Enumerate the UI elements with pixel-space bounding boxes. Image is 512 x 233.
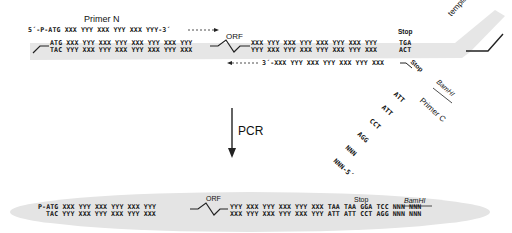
- product-bamhi-label: BamHI: [404, 197, 425, 204]
- template-bottom-strand-right: YYY XXX YYY XXX YYY XXX YYY XXX: [251, 47, 377, 54]
- primer-c-tail-codon: ATT: [380, 104, 394, 118]
- primer-c-tail-codon: CCT: [368, 117, 382, 131]
- primer-c-tail-codon: NNN: [344, 144, 358, 158]
- primer-c-tail-codon: ATT: [392, 90, 406, 104]
- product-bottom-left: TAC YYY XXX YYY XXX YYY XXX: [46, 211, 156, 218]
- stop-codon-bottom: ACT: [399, 47, 411, 54]
- stop-label: Stop: [398, 28, 412, 35]
- primer-n-label: Primer N: [84, 14, 120, 24]
- orf-label: ORF: [226, 32, 243, 41]
- product-stop-label: Stop: [354, 196, 368, 203]
- template-bottom-strand-left: TAC YYY XXX YYY XXX YYY XXX YYY XXX: [50, 47, 192, 54]
- product-orf-label: ORF: [206, 195, 221, 202]
- primer-c-sequence: 3´-XXX YYY XXX YYY XXX YYY XXX: [262, 60, 384, 67]
- pcr-label: PCR: [238, 124, 263, 138]
- primer-c-tail-codon: AGG: [356, 130, 370, 144]
- primer-n-sequence: 5´-P-ATG XXX YYY XXX YYY XXX YYY-3´: [28, 27, 170, 34]
- product-bottom-right: XXX YYY XXX YYY XXX YYY ATT ATT CCT AGG …: [230, 211, 421, 218]
